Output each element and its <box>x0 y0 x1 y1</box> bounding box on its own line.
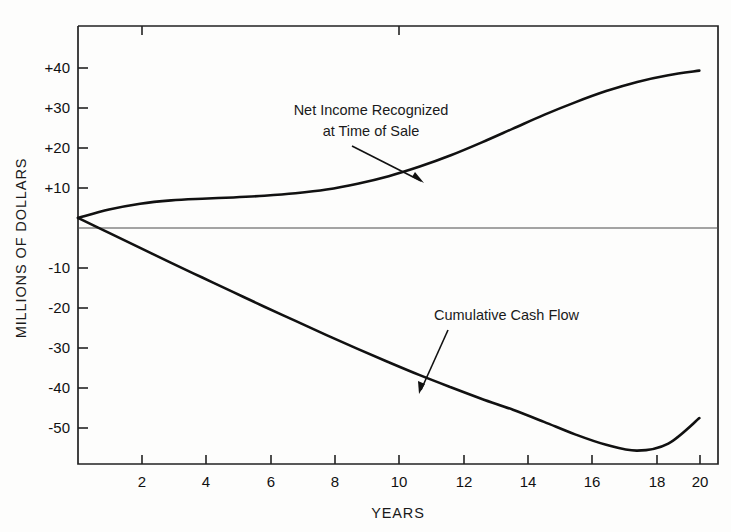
y-tick-label: +40 <box>45 59 70 76</box>
y-axis-title: MILLIONS OF DOLLARS <box>13 158 29 339</box>
net-income-annotation-line1: Net Income Recognized <box>294 102 449 118</box>
chart-figure: +40 +30 +20 +10 -10 -20 -30 -40 -50 <box>0 0 731 532</box>
y-tick-label: -50 <box>48 419 70 436</box>
x-axis-ticks <box>142 26 700 464</box>
x-axis-title: YEARS <box>371 505 425 521</box>
x-tick-label: 10 <box>391 473 408 490</box>
x-tick-label: 8 <box>331 473 339 490</box>
net-income-annotation-line2: at Time of Sale <box>323 123 420 139</box>
net-income-curve <box>78 71 699 218</box>
y-axis-tick-labels: +40 +30 +20 +10 -10 -20 -30 -40 -50 <box>45 59 70 436</box>
x-tick-label: 16 <box>584 473 601 490</box>
x-tick-label: 6 <box>267 473 275 490</box>
x-tick-label: 2 <box>138 473 146 490</box>
plot-frame <box>78 26 718 464</box>
x-tick-label: 12 <box>456 473 473 490</box>
y-tick-label: +30 <box>45 99 70 116</box>
cumulative-cash-flow-annotation-line1: Cumulative Cash Flow <box>434 307 580 323</box>
x-tick-label: 4 <box>202 473 210 490</box>
x-axis-tick-labels: 2 4 6 8 10 12 14 16 18 20 <box>138 473 709 490</box>
x-tick-label: 18 <box>649 473 666 490</box>
y-tick-label: +10 <box>45 179 70 196</box>
y-tick-label: -30 <box>48 339 70 356</box>
x-tick-label: 14 <box>520 473 537 490</box>
y-axis-ticks <box>78 68 88 428</box>
y-tick-label: +20 <box>45 139 70 156</box>
cumulative-cash-flow-annotation: Cumulative Cash Flow <box>418 307 580 394</box>
net-income-annotation: Net Income Recognized at Time of Sale <box>294 102 449 183</box>
x-tick-label: 20 <box>692 473 709 490</box>
cumulative-cash-flow-curve <box>78 218 699 451</box>
y-tick-label: -40 <box>48 379 70 396</box>
y-tick-label: -10 <box>48 259 70 276</box>
chart-canvas: +40 +30 +20 +10 -10 -20 -30 -40 -50 <box>0 0 731 532</box>
y-tick-label: -20 <box>48 299 70 316</box>
